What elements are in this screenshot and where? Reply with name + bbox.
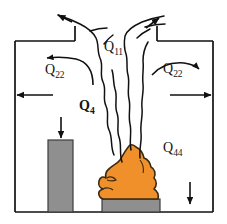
label-q22-left-symbol: Q [45, 62, 55, 77]
label-q11: Q11 [104, 40, 123, 57]
diagram-svg [0, 0, 227, 224]
label-q44-symbol: Q [163, 140, 173, 155]
label-q22-left: Q22 [45, 63, 64, 80]
flame-shape [99, 145, 159, 199]
label-q22-right-subscript: 22 [173, 69, 182, 79]
smoke-plume [58, 15, 165, 162]
label-q22-right: Q22 [163, 62, 182, 79]
label-q44-subscript: 44 [173, 148, 182, 158]
fuel-base-slab [102, 199, 160, 212]
label-q22-right-symbol: Q [163, 61, 173, 76]
gray-column [48, 140, 73, 212]
label-q4: Q4 [79, 99, 94, 116]
label-q4-symbol: Q [79, 98, 90, 113]
diagram-canvas: Q11 Q22 Q22 Q4 Q44 [0, 0, 227, 224]
label-q4-subscript: 4 [90, 106, 95, 116]
arrow-top-left-outflow [58, 15, 72, 22]
label-q44: Q44 [163, 141, 182, 158]
label-q11-subscript: 11 [114, 47, 123, 57]
label-q11-symbol: Q [104, 39, 114, 54]
label-q22-left-subscript: 22 [55, 70, 64, 80]
